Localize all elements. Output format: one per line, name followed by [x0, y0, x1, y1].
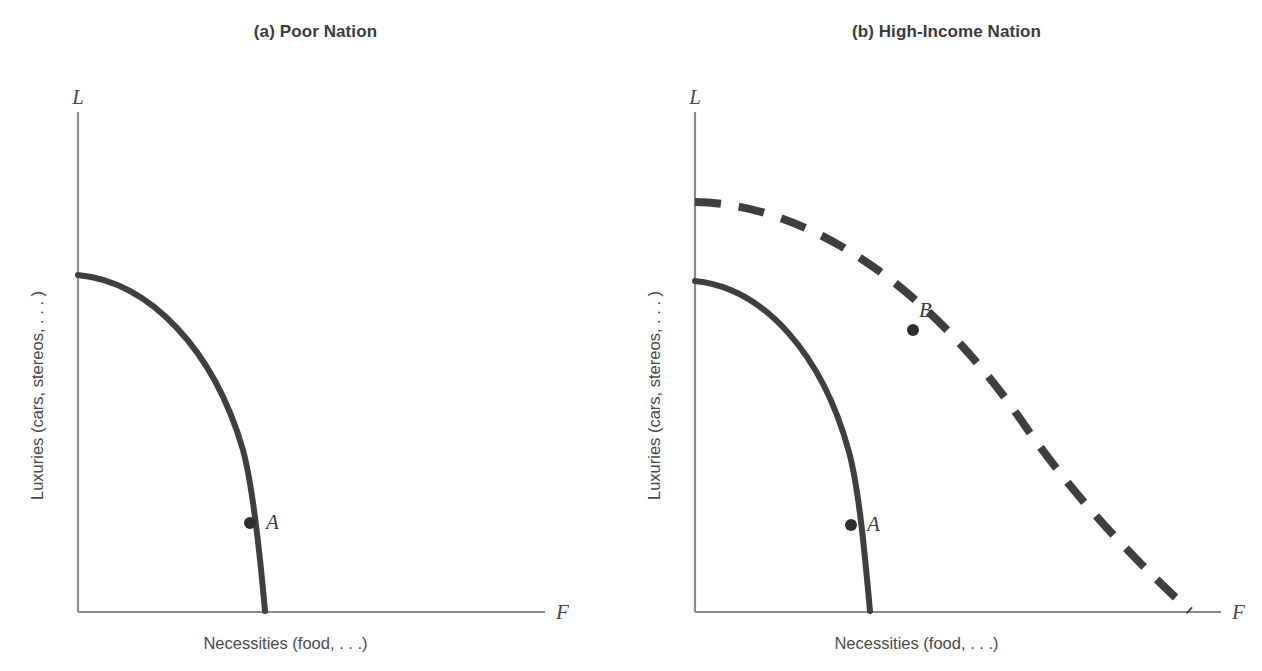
point-a-marker — [845, 519, 857, 531]
point-b-label: B — [919, 298, 932, 322]
plot-area-high-income-nation: L F A B — [631, 0, 1262, 671]
point-a-label: A — [865, 512, 880, 536]
point-b-marker — [907, 324, 919, 336]
panel-high-income-nation: (b) High-Income Nation L F A B Luxuries … — [631, 0, 1262, 671]
x-axis-label-high-income-nation: Necessities (food, . . .) — [631, 634, 1262, 653]
ppf-figure: (a) Poor Nation L F A Luxuries (cars, st… — [0, 0, 1262, 671]
x-axis-tip-label: F — [555, 600, 569, 624]
ppf-curve-solid — [78, 275, 265, 611]
plot-area-poor-nation: L F A — [0, 0, 631, 671]
x-axis-label-poor-nation: Necessities (food, . . .) — [0, 634, 631, 653]
ppf-curve-dashed — [695, 202, 1190, 611]
point-a-marker — [244, 517, 256, 529]
y-axis-label-high-income-nation: Luxuries (cars, stereos, . . . ) — [645, 291, 664, 500]
y-axis-tip-label: L — [688, 85, 701, 109]
ppf-curve-solid — [695, 281, 870, 611]
panel-poor-nation: (a) Poor Nation L F A Luxuries (cars, st… — [0, 0, 631, 671]
point-a-label: A — [264, 510, 279, 534]
x-axis-tip-label: F — [1231, 600, 1245, 624]
y-axis-label-poor-nation: Luxuries (cars, stereos, . . . ) — [28, 291, 47, 500]
y-axis-tip-label: L — [71, 85, 84, 109]
